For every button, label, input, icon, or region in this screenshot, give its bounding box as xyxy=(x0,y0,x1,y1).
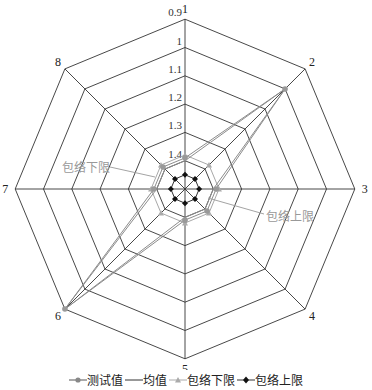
axis-label: 8 xyxy=(55,55,61,69)
radial-tick-label: 1.4 xyxy=(168,148,182,160)
radar-grid: 0.911.11.21.31.4 xyxy=(15,6,355,359)
legend-label: 均值 xyxy=(143,371,167,389)
data-point xyxy=(182,217,188,223)
legend-label: 包络上限 xyxy=(255,371,303,389)
radial-tick-label: 1 xyxy=(177,35,183,47)
radar-chart: 0.911.11.21.31.4 12345678 包络下限包络上限 xyxy=(0,0,372,370)
axis-label: 5 xyxy=(182,362,188,370)
data-point xyxy=(168,186,174,192)
legend-item-mean: 均值 xyxy=(125,371,167,389)
data-point xyxy=(160,164,166,170)
axis-label: 1 xyxy=(182,2,188,16)
annotation-lower: 包络下限 xyxy=(62,160,110,175)
data-point xyxy=(62,306,68,312)
grid-spoke xyxy=(185,189,305,309)
data-point xyxy=(151,186,157,192)
radial-tick-label: 1.1 xyxy=(168,63,182,75)
legend-item-lower: 包络下限 xyxy=(169,371,235,389)
legend-circle-marker-icon xyxy=(69,375,87,385)
grid-spoke xyxy=(65,189,185,309)
axis-label: 4 xyxy=(309,309,315,323)
legend-label: 测试值 xyxy=(87,371,123,389)
axis-label: 3 xyxy=(362,182,368,196)
grid-spoke xyxy=(185,69,305,189)
data-point xyxy=(182,172,188,178)
data-point xyxy=(282,86,288,92)
legend-diamond-marker-icon xyxy=(237,375,255,385)
data-point xyxy=(213,186,219,192)
data-point xyxy=(182,200,188,206)
radial-tick-label: 1.3 xyxy=(168,119,182,131)
data-point xyxy=(204,208,210,214)
axis-label: 7 xyxy=(2,182,8,196)
legend-item-test: 测试值 xyxy=(69,371,123,389)
data-point xyxy=(182,155,188,161)
axis-label: 6 xyxy=(55,309,61,323)
annotation-upper: 包络上限 xyxy=(266,209,314,224)
legend-triangle-marker-icon xyxy=(169,375,187,385)
chart-legend: 测试值 均值 包络下限 包络上限 xyxy=(0,370,372,390)
radial-tick-label: 0.9 xyxy=(168,6,182,18)
legend-label: 包络下限 xyxy=(187,371,235,389)
legend-line-icon xyxy=(125,375,143,385)
axis-label: 2 xyxy=(309,55,315,69)
data-point xyxy=(196,186,202,192)
radial-tick-label: 1.2 xyxy=(168,91,182,103)
legend-item-upper: 包络上限 xyxy=(237,371,303,389)
